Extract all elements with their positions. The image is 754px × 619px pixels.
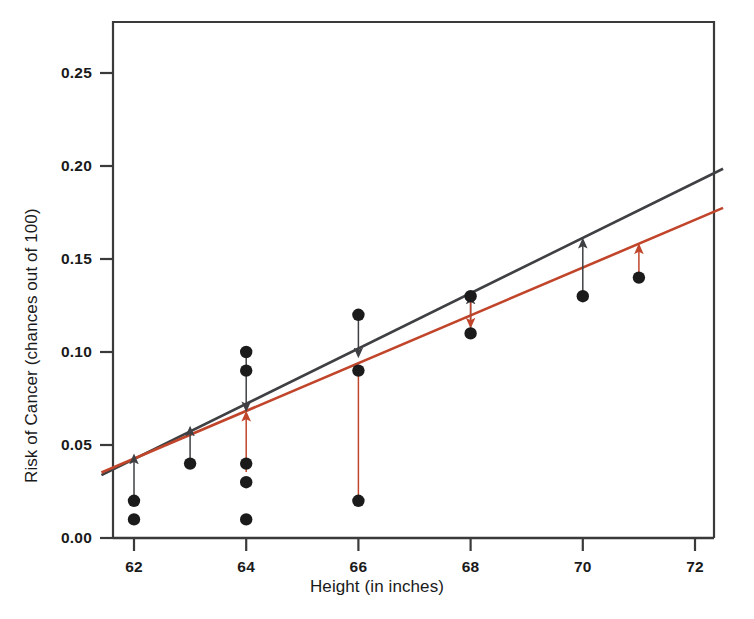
data-point xyxy=(633,271,645,283)
data-point xyxy=(240,457,252,469)
x-axis-tick-label: 62 xyxy=(125,558,143,576)
x-axis-tick-label: 64 xyxy=(237,558,255,576)
data-point xyxy=(240,364,252,376)
red-regression-line xyxy=(101,208,723,473)
data-point xyxy=(240,476,252,488)
plot-frame xyxy=(113,22,714,538)
x-axis-tick-label: 70 xyxy=(574,558,592,576)
y-axis-title: Risk of Cancer (chances out of 100) xyxy=(22,208,42,483)
data-point xyxy=(464,327,476,339)
axis-ticks xyxy=(100,73,695,551)
data-point xyxy=(577,290,589,302)
chart-figure: 0.000.050.100.150.200.25626466687072 Hei… xyxy=(0,0,754,619)
y-axis-tick-label: 0.20 xyxy=(20,157,92,175)
data-point xyxy=(240,513,252,525)
gray-regression-line xyxy=(101,169,723,475)
scatter-plot-canvas xyxy=(0,0,754,619)
data-point xyxy=(184,457,196,469)
data-points xyxy=(128,271,645,525)
data-point xyxy=(464,290,476,302)
data-point xyxy=(352,309,364,321)
y-axis-tick-label: 0.25 xyxy=(20,64,92,82)
y-axis-tick-label: 0.00 xyxy=(20,529,92,547)
data-point xyxy=(128,513,140,525)
x-axis-tick-label: 66 xyxy=(350,558,368,576)
axis-lines xyxy=(113,22,714,538)
data-point xyxy=(352,364,364,376)
regression-lines xyxy=(101,169,723,475)
data-point xyxy=(352,495,364,507)
data-point xyxy=(128,495,140,507)
x-axis-title: Height (in inches) xyxy=(0,577,754,597)
data-point xyxy=(240,346,252,358)
x-axis-tick-label: 68 xyxy=(462,558,480,576)
residual-arrows xyxy=(134,243,639,499)
x-axis-tick-label: 72 xyxy=(686,558,704,576)
